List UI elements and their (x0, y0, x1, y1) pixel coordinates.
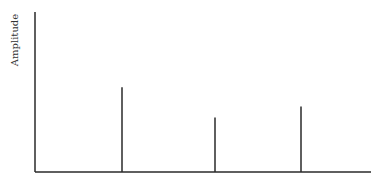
stem-chart (0, 0, 390, 179)
stems (122, 87, 301, 172)
